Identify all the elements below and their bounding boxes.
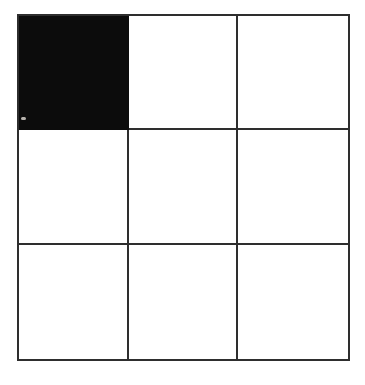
grid-cell-r0c2 bbox=[238, 16, 348, 130]
grid-figure bbox=[17, 14, 350, 361]
grid-cell-r1c0 bbox=[19, 130, 129, 244]
grid-cell-r0c0 bbox=[19, 16, 129, 130]
grid-cell-r2c0 bbox=[19, 245, 129, 359]
grid-cell-r2c1 bbox=[129, 245, 239, 359]
grid-cell-r1c2 bbox=[238, 130, 348, 244]
grid-cell-r2c2 bbox=[238, 245, 348, 359]
gridline-fade-artifact bbox=[59, 130, 87, 133]
grid-cell-r0c1 bbox=[129, 16, 239, 130]
grid-cell-r1c1 bbox=[129, 130, 239, 244]
scan-speck bbox=[21, 117, 26, 120]
